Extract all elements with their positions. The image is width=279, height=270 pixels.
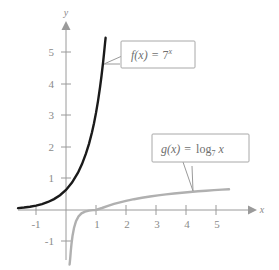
g-callout-leader (183, 162, 193, 191)
f-callout-leader (104, 56, 122, 64)
y-tick-label--1: -1 (45, 235, 54, 247)
x-tick-label-2: 2 (124, 218, 130, 230)
y-axis-arrow (62, 21, 71, 30)
g-callout-arg: x (217, 142, 224, 156)
x-axis-label: x (259, 204, 265, 215)
f-callout[interactable]: f(x)=7x (104, 41, 195, 68)
y-axis-label: y (63, 7, 69, 18)
y-tick-label-2: 2 (49, 141, 55, 153)
x-tick-label--1: -1 (31, 218, 40, 230)
x-tick-label-3: 3 (154, 218, 160, 230)
y-tick-label-4: 4 (49, 78, 55, 90)
f-callout-exponent: x (167, 47, 172, 56)
x-tick-label-4: 4 (184, 218, 190, 230)
g-callout-equals: = (184, 142, 191, 156)
curve-exponential (18, 38, 106, 208)
figure-container: -1 1 2 3 4 5 5 4 3 2 1 -1 x y (0, 0, 279, 270)
g-callout-log: log (196, 142, 211, 156)
graph-canvas: -1 1 2 3 4 5 5 4 3 2 1 -1 x y (0, 0, 279, 270)
g-callout-base: 7 (211, 149, 215, 158)
y-tick-label-3: 3 (49, 109, 55, 121)
f-callout-text: f(x)=7x (131, 47, 172, 62)
x-axis-arrow (248, 206, 257, 215)
x-tick-label-1: 1 (94, 218, 100, 230)
y-tick-label-5: 5 (49, 46, 55, 58)
x-tick-label-5: 5 (214, 218, 220, 230)
f-callout-equals: = (152, 48, 159, 62)
y-tick-label-1: 1 (49, 172, 55, 184)
g-callout[interactable]: g(x)=log7x (152, 134, 249, 191)
